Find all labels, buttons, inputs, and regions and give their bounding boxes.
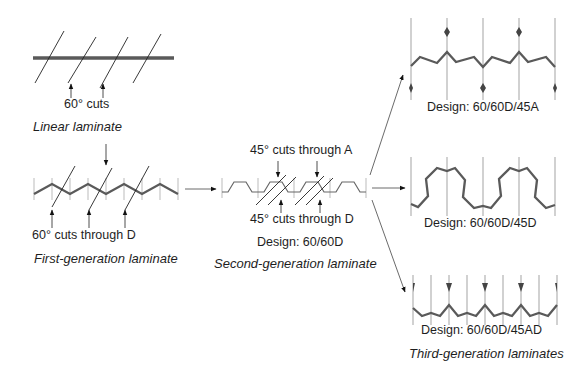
design-45a-label: Design: 60/60D/45A (427, 100, 539, 114)
first-gen-caption: First-generation laminate (34, 251, 178, 266)
linear-cut-label: 60° cuts (64, 97, 109, 111)
third-gen-caption: Third-generation laminates (409, 346, 564, 361)
first-gen-laminate (34, 144, 178, 228)
first-gen-cut-label: 60° cuts through D (32, 228, 136, 242)
laminate-diagram (0, 0, 584, 371)
design-45ad-label: Design: 60/60D/45AD (421, 323, 542, 337)
design-45d-label: Design: 60/60D/45D (424, 216, 537, 230)
linear-laminate (33, 31, 174, 98)
design-45ad (413, 275, 557, 325)
second-gen-caption: Second-generation laminate (214, 256, 377, 271)
second-gen-bottom-label: 45° cuts through D (250, 212, 354, 226)
second-gen-laminate (222, 161, 366, 213)
second-gen-design: Design: 60/60D (257, 235, 343, 249)
second-gen-top-label: 45° cuts through A (250, 143, 352, 157)
design-45d (411, 157, 555, 216)
design-45a (409, 18, 557, 100)
linear-caption: Linear laminate (33, 119, 122, 134)
